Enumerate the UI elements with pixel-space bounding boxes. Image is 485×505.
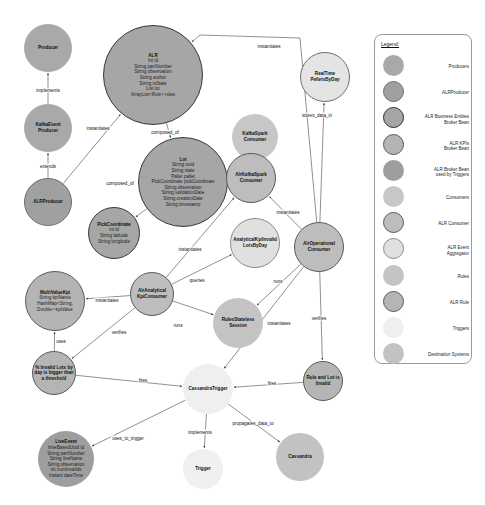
- legend-item: ALR Business Entities Broker Bean: [375, 107, 473, 131]
- legend-label: ALR Business Entities Broker Bean: [411, 114, 469, 125]
- node-rules-stateless-session[interactable]: RulesStateless Session: [213, 298, 263, 348]
- diagram-canvas: implementsextendsinstantiatescomposed_of…: [0, 0, 485, 505]
- edge-label: instantiates: [85, 126, 110, 131]
- edge-label: uses: [55, 339, 67, 344]
- node-title: KafkaEvent Producer: [35, 122, 60, 133]
- legend-panel: Legend: ProducersALRProducerALR Business…: [374, 34, 472, 364]
- node-title: ALRProducer: [33, 199, 63, 205]
- node-invalid-lots-threshold[interactable]: % Invalid Lots by day is bigger than a t…: [32, 351, 76, 395]
- edge-label: verifies: [311, 316, 328, 321]
- node-title: AlrAnalytical KpiConsumer: [137, 288, 167, 299]
- node-alr-producer[interactable]: ALRProducer: [24, 178, 72, 226]
- edge-label: propagates_data_to: [232, 421, 275, 426]
- edge-label: composed_of: [105, 181, 135, 186]
- edge-alr-operational-consumer-to-realtime-pellets-by-day: [320, 103, 324, 222]
- edge-label: queries: [188, 278, 205, 283]
- edge-label: instantiates: [266, 321, 291, 326]
- legend-item: ALR Consumer: [375, 212, 473, 236]
- node-attribute: Instant dateTime: [49, 473, 83, 479]
- edge-label: uses_to_trigger: [111, 436, 145, 441]
- node-alr-operational-consumer[interactable]: AlrOperational Consumer: [294, 222, 344, 272]
- edge-label: fires: [267, 381, 278, 386]
- legend-swatch-icon: [383, 81, 404, 102]
- node-attribute: String timestamp: [166, 202, 200, 208]
- legend-swatch-icon: [383, 107, 404, 128]
- legend-item: Consumers: [375, 186, 473, 210]
- legend-item: Triggers: [375, 317, 473, 341]
- legend-label: ALRProducer: [411, 90, 469, 95]
- node-producer[interactable]: Producer: [24, 24, 72, 72]
- node-title: Producer: [38, 45, 58, 51]
- node-attribute: String longitude: [98, 239, 130, 245]
- legend-item: ALR Event Aggregator: [375, 238, 473, 262]
- legend-item: ALR Broker Bean used by Triggers: [375, 160, 473, 184]
- legend-title: Legend:: [381, 41, 399, 47]
- legend-swatch-icon: [383, 291, 404, 312]
- node-live-event[interactable]: LiveEventtimeBasedUuid idString partNumb…: [38, 431, 94, 487]
- legend-item: Producers: [375, 55, 473, 79]
- edge-label: fires: [138, 378, 149, 383]
- legend-item: ALR KPIs Broker Bean: [375, 134, 473, 158]
- edge-invalid-lots-threshold-to-cassandra-trigger: [76, 375, 182, 386]
- legend-label: Producers: [411, 64, 469, 69]
- node-pick-coordinate[interactable]: PickCoordinateint idString latitudeStrin…: [88, 207, 140, 259]
- node-realtime-pellets-by-day[interactable]: RealTime PelletsByDay: [300, 52, 350, 102]
- legend-label: Consumers: [411, 195, 469, 200]
- node-attribute: Double> kpiValue: [37, 307, 73, 313]
- edge-alr-analytical-kpi-consumer-to-rules-stateless-session: [173, 301, 214, 315]
- legend-swatch-icon: [383, 212, 404, 233]
- node-attribute: ArrayList<Rule> rules: [131, 92, 175, 98]
- legend-item: Rules: [375, 265, 473, 289]
- edge-label: instantiates: [177, 247, 202, 252]
- node-cassandra[interactable]: Cassandra: [276, 433, 324, 481]
- legend-label: ALR Consumer: [411, 221, 469, 226]
- legend-item: Destination Systems: [375, 343, 473, 367]
- edge-label: instantiates: [275, 210, 300, 215]
- node-title: CassandraTrigger: [188, 386, 227, 392]
- node-lot[interactable]: LotString uuidString statePallet palletP…: [138, 137, 228, 227]
- legend-item: ALR Rule: [375, 291, 473, 315]
- edge-alr-operational-consumer-to-rules-stateless-session: [257, 264, 301, 305]
- edge-label: instantiates: [94, 298, 119, 303]
- edge-label: runs: [173, 323, 184, 328]
- node-trigger[interactable]: Trigger: [183, 449, 223, 489]
- node-title: Trigger: [195, 466, 211, 472]
- legend-swatch-icon: [383, 343, 404, 364]
- legend-label: Triggers: [411, 326, 469, 331]
- edge-label: implements: [187, 430, 213, 435]
- legend-swatch-icon: [383, 317, 404, 338]
- node-alr[interactable]: ALRInt idString partNumberString observa…: [103, 25, 203, 125]
- legend-swatch-icon: [383, 134, 404, 155]
- node-title: Cassandra: [288, 454, 312, 460]
- legend-label: Rules: [411, 274, 469, 279]
- edge-label: extends: [39, 164, 57, 169]
- legend-swatch-icon: [383, 265, 404, 286]
- node-analytical-kpi-invalid-lots-by-day[interactable]: AnalyticalKpiInvalid LotsByDay: [230, 218, 280, 268]
- legend-label: Destination Systems: [411, 352, 469, 357]
- node-alr-analytical-kpi-consumer[interactable]: AlrAnalytical KpiConsumer: [130, 272, 174, 316]
- node-title: AlrOperational Consumer: [303, 241, 335, 252]
- legend-label: ALR KPIs Broker Bean: [411, 140, 469, 151]
- edge-label: implements: [35, 88, 61, 93]
- legend-label: ALR Event Aggregator: [411, 245, 469, 256]
- legend-swatch-icon: [383, 238, 404, 259]
- edge-label: composed_of: [150, 130, 180, 135]
- edge-label: verifies: [111, 330, 128, 335]
- node-alr-kafka-spark-consumer[interactable]: AlrKafkaSpark Consumer: [226, 153, 276, 203]
- legend-label: ALR Rule: [411, 300, 469, 305]
- legend-label: ALR Broker Bean used by Triggers: [411, 166, 469, 177]
- legend-swatch-icon: [383, 55, 404, 76]
- node-title: RulesStateless Session: [222, 317, 255, 328]
- edge-label: instantiates: [256, 44, 281, 49]
- legend-swatch-icon: [383, 160, 404, 181]
- node-kafka-event-producer[interactable]: KafkaEvent Producer: [24, 104, 72, 152]
- node-multi-value-kpi[interactable]: MultiValueKpiString kpiNameHashMap<Strin…: [25, 271, 85, 331]
- node-title: KafkaSpark Consumer: [242, 131, 267, 142]
- edge-lot-to-pick-coordinate: [136, 209, 147, 217]
- node-title: % Invalid Lots by day is bigger than a t…: [34, 365, 73, 382]
- node-title: RealTime PelletsByDay: [310, 71, 339, 82]
- legend-swatch-icon: [383, 186, 404, 207]
- node-cassandra-trigger[interactable]: CassandraTrigger: [183, 364, 233, 414]
- node-rule-and-lot-invalid[interactable]: Rule and Lot is Invalid: [303, 361, 343, 401]
- node-title: AnalyticalKpiInvalid LotsByDay: [233, 237, 277, 248]
